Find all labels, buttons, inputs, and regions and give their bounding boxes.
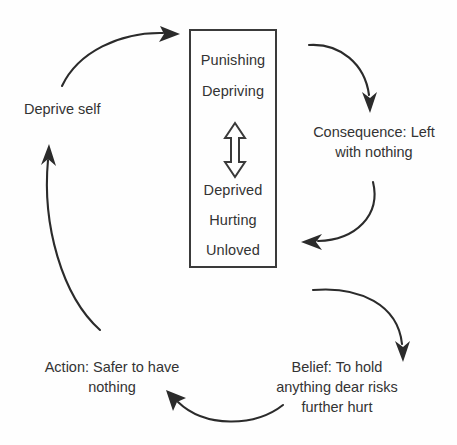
core-line-depriving: Depriving (191, 83, 275, 99)
arrow-deprive-to-core (62, 26, 180, 86)
node-deprive-self: Deprive self (24, 99, 174, 119)
core-line-unloved: Unloved (191, 242, 275, 258)
cycle-diagram: Punishing Depriving Deprived Hurting Unl… (0, 0, 457, 445)
core-line-deprived: Deprived (191, 182, 275, 198)
arrow-core-to-consequence (309, 45, 377, 113)
node-action: Action: Safer to have nothing (22, 357, 202, 397)
node-belief: Belief: To hold anything dear risks furt… (258, 357, 416, 417)
core-line-hurting: Hurting (191, 212, 275, 228)
arrow-action-to-deprive (41, 144, 100, 330)
arrow-consequence-to-belief (313, 289, 410, 362)
double-headed-arrow-icon (191, 119, 279, 181)
core-beliefs-box: Punishing Depriving Deprived Hurting Unl… (189, 29, 277, 268)
arrow-consequence-to-core (301, 182, 374, 250)
node-consequence: Consequence: Left with nothing (299, 122, 449, 162)
core-line-punishing: Punishing (191, 52, 275, 68)
